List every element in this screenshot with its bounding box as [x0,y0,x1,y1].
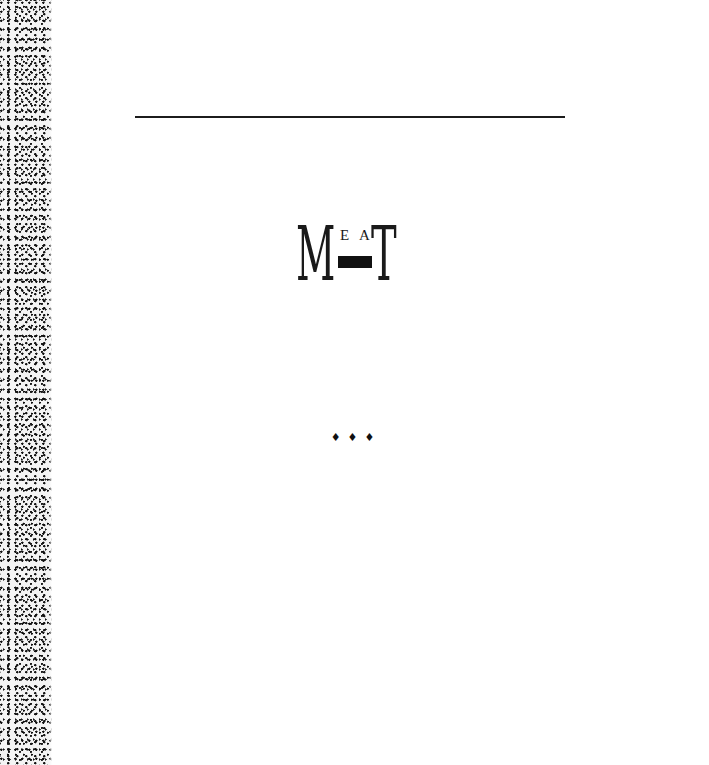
diamond-icon: ♦♦♦ [326,430,386,446]
logo-letter-m: M [296,222,335,286]
speckled-edge-strip [0,0,52,765]
logo-letter-t: T [371,222,397,286]
logo-letter-a: A [359,228,370,243]
logo-black-bar [338,256,372,268]
logo-letter-e: E [340,228,349,243]
top-horizontal-rule [135,116,565,118]
title-logo: M E A T [296,222,396,286]
